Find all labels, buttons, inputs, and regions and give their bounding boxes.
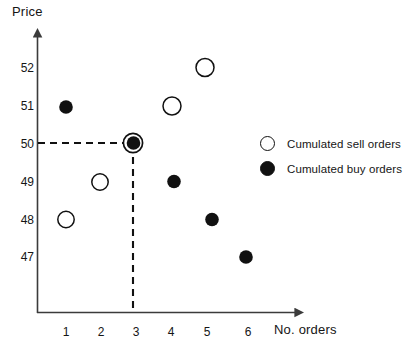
filled-circle-icon — [260, 161, 275, 176]
legend-label-sell: Cumulated sell orders — [287, 138, 401, 150]
legend-item-sell: Cumulated sell orders — [260, 136, 401, 151]
sell-point-5-52 — [196, 59, 214, 77]
buy-point-6-47 — [239, 250, 253, 264]
legend-label-buy: Cumulated buy orders — [287, 163, 402, 175]
buy-point-5-48 — [205, 213, 219, 227]
sell-point-2-49 — [92, 174, 108, 190]
buy-point-1-51 — [59, 100, 73, 114]
buy-point-3-50 — [127, 136, 141, 150]
legend-item-buy: Cumulated buy orders — [260, 161, 402, 176]
scatter-chart: Price No. orders 52 51 50 49 48 47 1 2 3… — [0, 0, 413, 349]
sell-point-4-51 — [163, 97, 181, 115]
series-cumulated-buy-orders — [59, 100, 253, 264]
sell-point-1-48 — [58, 211, 74, 227]
buy-point-4-49 — [167, 175, 181, 189]
open-circle-icon — [260, 136, 275, 151]
